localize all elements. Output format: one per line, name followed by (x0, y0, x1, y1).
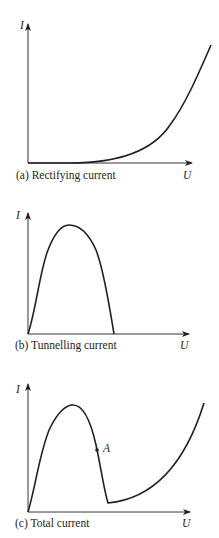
rectifying-current-curve (28, 45, 211, 163)
total-current-curve (28, 403, 204, 512)
point-a-label: A (103, 443, 110, 455)
panel-caption: (b) Tunnelling current (15, 340, 117, 352)
x-axis-label: U (182, 518, 190, 530)
panel-c-total (28, 384, 204, 512)
y-axis-label: I (16, 384, 20, 396)
y-axis-label: I (20, 20, 24, 32)
tunnelling-current-curve (28, 225, 114, 334)
panel-b-tunnelling (28, 213, 189, 334)
panel-caption: (c) Total current (15, 518, 89, 530)
x-axis-label: U (180, 340, 188, 352)
figure-canvas (0, 0, 219, 538)
panel-caption: (a) Rectifying current (16, 170, 116, 182)
panel-a-rectifying (28, 24, 211, 163)
point-a-marker (95, 448, 99, 452)
x-axis-label: U (183, 170, 191, 182)
y-axis-label: I (16, 210, 20, 222)
